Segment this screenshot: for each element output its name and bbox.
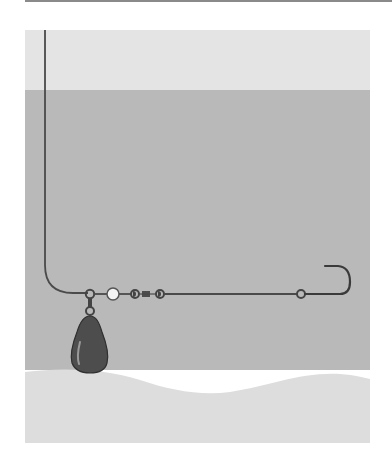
- lake-bottom: [25, 370, 370, 443]
- bead-icon: [107, 288, 119, 300]
- carolina-rig-diagram: [0, 0, 392, 471]
- drop-link: [88, 299, 92, 307]
- air-region: [25, 30, 370, 92]
- water-region: [25, 90, 370, 370]
